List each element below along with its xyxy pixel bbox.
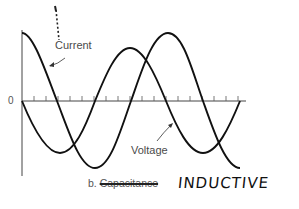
current-label: Current	[55, 40, 92, 51]
figure-caption: b. Capacitance	[88, 178, 158, 189]
dotted-mark	[56, 10, 59, 40]
dotted-mark-head	[55, 6, 56, 11]
x-axis-ticks	[34, 96, 238, 101]
handwritten-annotation: INDUCTIVE	[177, 174, 270, 192]
zero-label: 0	[8, 95, 14, 106]
caption-struck-text: Capacitance	[100, 177, 158, 189]
voltage-label: Voltage	[131, 145, 168, 156]
caption-prefix: b.	[88, 177, 97, 189]
current-arrowhead-icon	[49, 62, 54, 67]
waveform-figure: 0 Current Voltage b. Capacitance INDUCTI…	[0, 0, 299, 209]
